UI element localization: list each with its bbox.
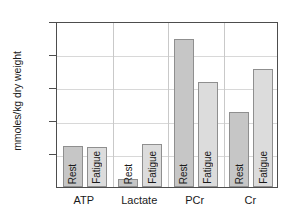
y-axis-tick-mark bbox=[49, 22, 56, 23]
bar-label-wrapper: Fatigue bbox=[142, 151, 162, 184]
bar-label: Rest bbox=[67, 164, 78, 184]
bar-label-wrapper: Fatigue bbox=[253, 151, 273, 184]
bar-label-wrapper: Fatigue bbox=[198, 151, 218, 184]
x-axis-label-lactate: Lactate bbox=[112, 194, 168, 206]
bar-label-wrapper: Rest bbox=[118, 164, 138, 184]
y-axis-tick-mark bbox=[49, 121, 56, 122]
bar-label: Rest bbox=[178, 164, 189, 184]
bar-label: Fatigue bbox=[147, 151, 158, 184]
bar-label: Rest bbox=[123, 164, 134, 184]
plot-area: RestFatigueRestFatigueRestFatigueRestFat… bbox=[56, 22, 278, 188]
x-axis-label-atp: ATP bbox=[56, 194, 112, 206]
y-axis-tick-mark bbox=[49, 88, 56, 89]
gridline bbox=[57, 89, 277, 90]
y-axis-title: mmoles/kg dry weight bbox=[4, 6, 30, 196]
y-axis-tick-mark bbox=[49, 55, 56, 56]
bar-label: Rest bbox=[234, 164, 245, 184]
bar-label-wrapper: Fatigue bbox=[87, 151, 107, 184]
bar-label-wrapper: Rest bbox=[174, 164, 194, 184]
bar-label: Fatigue bbox=[202, 151, 213, 184]
bar-chart: mmoles/kg dry weight 20406080100 RestFat… bbox=[0, 0, 290, 218]
category-separator bbox=[168, 23, 169, 187]
x-axis-label-cr: Cr bbox=[223, 194, 279, 206]
category-separator bbox=[224, 23, 225, 187]
y-axis-tick-mark bbox=[49, 154, 56, 155]
bar-label: Fatigue bbox=[258, 151, 269, 184]
bar-label-wrapper: Rest bbox=[63, 164, 83, 184]
bar-label: Fatigue bbox=[91, 151, 102, 184]
x-axis-label-pcr: PCr bbox=[167, 194, 223, 206]
gridline bbox=[57, 56, 277, 57]
category-separator bbox=[113, 23, 114, 187]
bar-label-wrapper: Rest bbox=[229, 164, 249, 184]
